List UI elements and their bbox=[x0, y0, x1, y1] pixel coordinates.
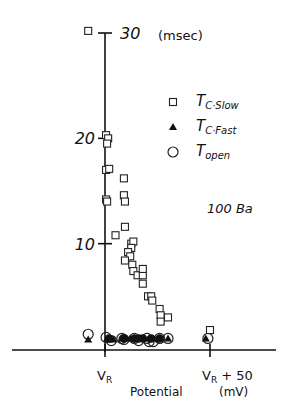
square-marker bbox=[207, 327, 214, 334]
overlap-marker bbox=[155, 334, 163, 342]
triangle-marker bbox=[164, 334, 172, 341]
x-tick-label: VR bbox=[97, 368, 112, 385]
annotation-label: 100 Ba bbox=[207, 201, 253, 216]
square-marker bbox=[104, 140, 111, 147]
square-marker bbox=[104, 198, 111, 205]
overlap-marker bbox=[105, 334, 113, 342]
overlap-marker bbox=[147, 334, 155, 342]
legend-label: TC·Slow bbox=[196, 92, 240, 111]
legend-label: TC·Fast bbox=[196, 117, 237, 136]
circle-marker bbox=[168, 147, 178, 157]
y-tick-label: 20 bbox=[75, 129, 95, 148]
legend-label: Topen bbox=[196, 142, 230, 161]
square-marker bbox=[120, 175, 127, 182]
square-marker bbox=[85, 27, 92, 34]
chart-canvas: 102030 VRVR + 50 TC·SlowTC·FastTopen (ms… bbox=[0, 0, 290, 419]
legend: TC·SlowTC·FastTopen bbox=[168, 92, 240, 161]
square-marker bbox=[149, 297, 156, 304]
square-marker bbox=[165, 314, 172, 321]
square-marker bbox=[121, 223, 128, 230]
square-marker bbox=[112, 232, 119, 239]
x-axis-title: Potential bbox=[130, 385, 183, 399]
overlap-marker bbox=[120, 334, 128, 342]
square-marker bbox=[106, 165, 113, 172]
square-marker bbox=[139, 280, 146, 287]
y-tick-label: 10 bbox=[75, 235, 95, 254]
square-marker bbox=[121, 198, 128, 205]
x-tick-label: VR + 50 bbox=[202, 368, 253, 385]
square-marker bbox=[139, 265, 146, 272]
triangle-marker bbox=[169, 123, 177, 130]
data-points bbox=[83, 27, 213, 346]
y-tick-label: 30 bbox=[120, 24, 140, 43]
square-marker bbox=[157, 318, 164, 325]
square-marker bbox=[121, 257, 128, 264]
x-unit-label: (mV) bbox=[219, 385, 248, 399]
y-unit-label: (msec) bbox=[158, 28, 203, 43]
overlap-marker bbox=[139, 334, 147, 342]
square-marker bbox=[170, 99, 177, 106]
